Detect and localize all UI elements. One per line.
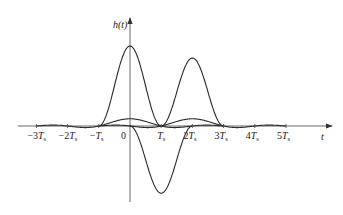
tick-label: Ts <box>157 130 166 142</box>
tick-label: 2Ts <box>183 130 197 142</box>
tick-label: −2Ts <box>59 130 78 142</box>
tick-label: 3Ts <box>215 130 229 142</box>
curves-group <box>36 46 286 193</box>
tick-label: 5Ts <box>277 130 291 142</box>
impulse-response-diagram: −3Ts−2Ts−TsTs2Ts3Ts4Ts5Ts h(t) t 0 <box>0 0 343 215</box>
origin-label: 0 <box>121 130 126 141</box>
tick-label: −Ts <box>90 130 104 142</box>
sum-pulse-curve <box>99 46 224 126</box>
y-axis-label: h(t) <box>113 19 128 31</box>
tick-label: −3Ts <box>27 130 46 142</box>
x-axis-label: t <box>321 131 324 142</box>
tick-label: 4Ts <box>246 130 260 142</box>
